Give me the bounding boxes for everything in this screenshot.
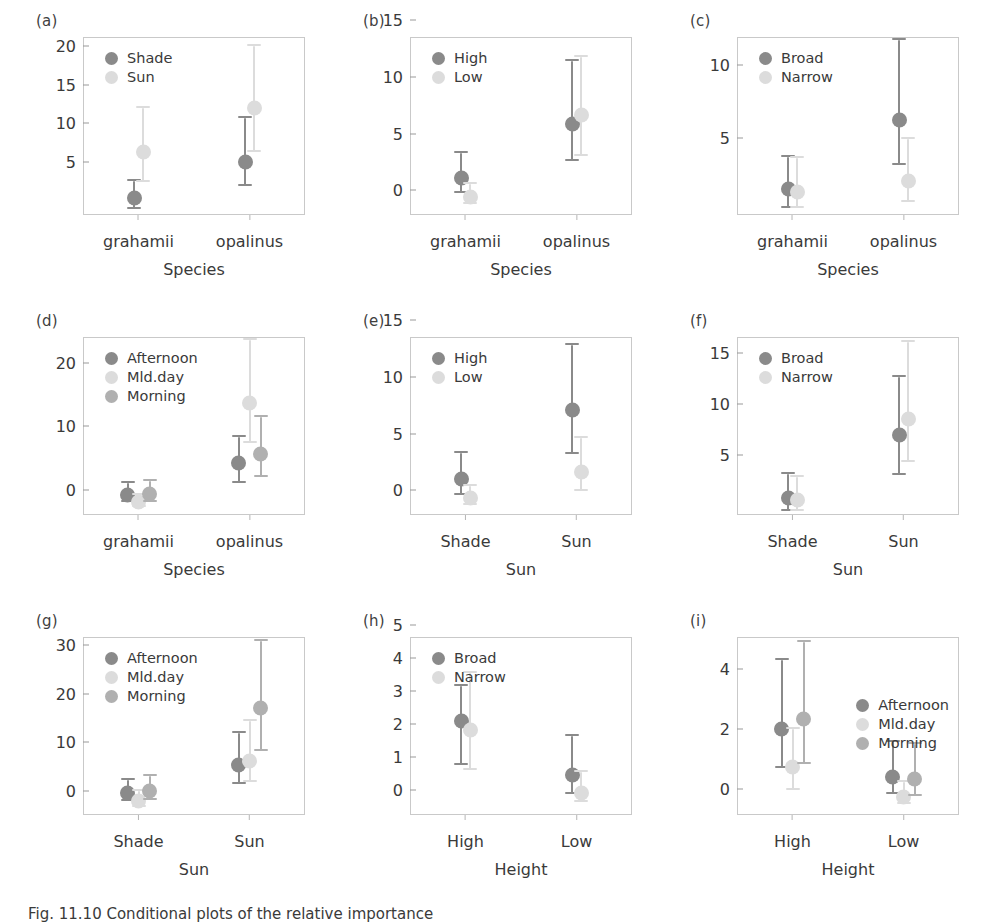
x-axis-title: Species	[737, 260, 959, 279]
data-point-marker	[892, 428, 907, 443]
error-bar-cap-lower	[786, 788, 800, 790]
y-tick-label: 5	[393, 124, 403, 143]
legend-item: Broad	[759, 50, 833, 66]
y-tick-label: 20	[56, 353, 76, 372]
y-axis-tick: 30	[56, 635, 83, 654]
y-tick-label: 15	[383, 11, 403, 30]
legend-marker-icon	[759, 52, 772, 65]
y-tick-mark	[410, 20, 416, 21]
y-tick-mark	[737, 668, 743, 669]
error-bar	[907, 139, 909, 202]
error-bar-cap-lower	[574, 489, 588, 491]
x-tick-mark	[138, 815, 139, 820]
x-tick-mark	[138, 215, 139, 220]
error-bar-cap-lower	[254, 749, 268, 751]
error-bar	[249, 340, 251, 443]
x-tick-mark	[792, 215, 793, 220]
x-tick-label: Sun	[888, 532, 918, 551]
error-bar-cap-upper	[790, 475, 804, 477]
y-tick-mark	[83, 644, 89, 645]
error-bar-cap-upper	[565, 734, 579, 736]
data-point-marker	[238, 154, 253, 169]
error-bar-cap-lower	[574, 800, 588, 802]
legend-marker-icon	[432, 652, 445, 665]
y-axis-tick: 0	[720, 779, 737, 798]
y-axis-tick: 2	[720, 719, 737, 738]
y-axis-tick: 20	[56, 684, 83, 703]
error-bar-cap-upper	[901, 340, 915, 342]
legend-label: Narrow	[454, 669, 506, 685]
y-tick-mark	[410, 723, 416, 724]
y-tick-label: 3	[393, 681, 403, 700]
error-bar-cap-upper	[232, 731, 246, 733]
data-point-marker	[892, 113, 907, 128]
x-axis-tick: High	[447, 815, 484, 851]
plot-area: 510grahamiiopalinusSpeciesBroadNarrow	[737, 37, 959, 215]
y-axis-tick: 5	[66, 152, 83, 171]
y-axis-tick: 4	[393, 648, 410, 667]
error-bar	[914, 744, 916, 796]
error-bar-cap-upper	[143, 774, 157, 776]
legend-label: Morning	[127, 688, 186, 704]
x-tick-mark	[249, 815, 250, 820]
legend-item: Afternoon	[105, 350, 198, 366]
x-axis-tick: Sun	[234, 815, 264, 851]
legend: BroadNarrow	[432, 650, 506, 685]
x-axis-title: Height	[410, 860, 632, 879]
x-tick-label: opalinus	[543, 232, 610, 251]
y-tick-label: 4	[393, 648, 403, 667]
x-tick-label: opalinus	[216, 532, 283, 551]
legend-label: High	[454, 350, 487, 366]
legend-label: Narrow	[781, 69, 833, 85]
legend-label: Low	[454, 369, 483, 385]
panel-g: (g)0102030ShadeSunSunAfternoonMld.dayMor…	[0, 600, 327, 900]
legend-item: Morning	[856, 735, 949, 751]
legend-label: Mld.day	[878, 716, 935, 732]
x-axis-tick: opalinus	[216, 215, 283, 251]
legend-label: Afternoon	[878, 697, 949, 713]
panel-label: (i)	[690, 612, 706, 630]
plot-area: 51015ShadeSunSunBroadNarrow	[737, 337, 959, 515]
y-tick-label: 10	[56, 114, 76, 133]
y-tick-mark	[410, 320, 416, 321]
x-axis-tick: Shade	[767, 515, 817, 551]
legend-marker-icon	[759, 352, 772, 365]
y-tick-label: 0	[66, 481, 76, 500]
y-axis-tick: 0	[66, 481, 83, 500]
x-axis-tick: Low	[561, 815, 593, 851]
legend-item: Low	[432, 69, 487, 85]
legend-marker-icon	[105, 690, 118, 703]
error-bar-cap-upper	[454, 451, 468, 453]
x-tick-label: Shade	[440, 532, 490, 551]
y-axis-tick: 1	[393, 747, 410, 766]
error-bar-cap-upper	[892, 38, 906, 40]
legend-item: Afternoon	[856, 697, 949, 713]
x-axis-tick: Sun	[888, 515, 918, 551]
x-axis-tick: Low	[888, 815, 920, 851]
error-bar-cap-upper	[574, 770, 588, 772]
plot-area: 0102030ShadeSunSunAfternoonMld.dayMornin…	[83, 637, 305, 815]
x-tick-mark	[465, 815, 466, 820]
panel-d: (d)01020grahamiiopalinusSpeciesAfternoon…	[0, 300, 327, 600]
y-axis-tick: 10	[383, 67, 410, 86]
x-axis-title: Height	[737, 860, 959, 879]
x-tick-label: grahamii	[430, 232, 501, 251]
y-axis-tick: 10	[56, 417, 83, 436]
error-bar-cap-upper	[232, 435, 246, 437]
data-point-marker	[574, 464, 589, 479]
error-bar-cap-upper	[143, 479, 157, 481]
y-axis-tick: 5	[393, 615, 410, 634]
error-bar-cap-lower	[243, 441, 257, 443]
error-bar	[803, 642, 805, 765]
legend-label: Broad	[781, 350, 824, 366]
y-tick-mark	[83, 123, 89, 124]
y-axis-tick: 3	[393, 681, 410, 700]
legend-item: Mld.day	[105, 669, 198, 685]
legend-item: Morning	[105, 688, 198, 704]
y-tick-mark	[737, 728, 743, 729]
y-tick-label: 15	[383, 311, 403, 330]
legend-label: Shade	[127, 50, 172, 66]
x-axis-tick: High	[774, 815, 811, 851]
y-axis-tick: 0	[393, 181, 410, 200]
y-axis-tick: 0	[393, 781, 410, 800]
